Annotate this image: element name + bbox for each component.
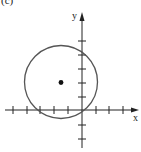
circle-graph: (c) x y xyxy=(0,0,141,152)
center-point xyxy=(59,80,64,85)
panel-label: (c) xyxy=(1,0,14,7)
y-axis xyxy=(78,18,86,148)
y-axis-arrow-icon xyxy=(80,12,85,21)
x-axis xyxy=(5,106,134,114)
x-axis-label: x xyxy=(133,112,138,123)
y-axis-label: y xyxy=(72,10,77,21)
